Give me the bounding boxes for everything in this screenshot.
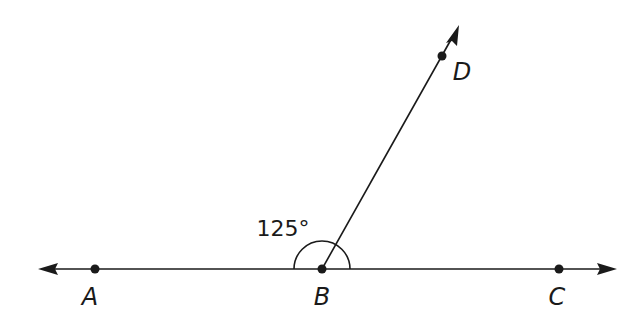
angle-label: 125° <box>257 216 310 241</box>
arrowhead-right-icon <box>597 263 617 275</box>
ray-bd <box>322 36 453 269</box>
point-a <box>91 265 100 274</box>
point-b <box>318 265 327 274</box>
point-c <box>555 265 564 274</box>
label-c: C <box>549 283 566 311</box>
label-d: D <box>453 58 471 86</box>
arrowhead-ray-icon <box>446 25 459 46</box>
geometry-diagram: A B C D 125° <box>0 0 633 333</box>
label-a: A <box>80 283 98 311</box>
arrowhead-left-icon <box>38 263 58 275</box>
point-d <box>438 52 447 61</box>
label-b: B <box>314 283 330 311</box>
